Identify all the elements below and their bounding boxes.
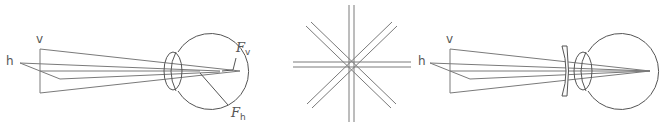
label-h-corrected: h <box>418 55 426 67</box>
label-focus-h: Fh <box>231 106 246 122</box>
label-focus-v: Fv <box>236 41 250 57</box>
ray-h-top <box>20 63 220 71</box>
panel-astigmatic-eye <box>20 34 249 110</box>
focus-h-letter: F <box>231 105 240 120</box>
panel-corrected-eye <box>430 34 659 110</box>
focus-h-pointer <box>200 73 228 105</box>
ray-bottom <box>40 71 240 93</box>
panel-astigmatism-chart <box>293 5 411 122</box>
ray-h-bottom <box>470 71 650 79</box>
label-v: v <box>36 33 43 45</box>
focus-v-letter: F <box>236 40 245 55</box>
label-v-corrected: v <box>446 33 453 45</box>
focus-h-subscript: h <box>240 112 246 122</box>
label-h: h <box>6 55 14 67</box>
focus-v-subscript: v <box>245 47 250 57</box>
ray-bottom <box>450 71 650 93</box>
diagram-canvas <box>0 0 661 133</box>
